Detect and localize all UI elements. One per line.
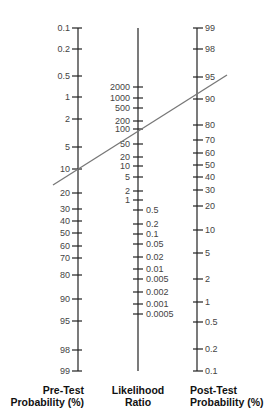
tick-label: 0.1 [57, 23, 70, 33]
tick-label: 0.5 [146, 205, 159, 215]
tick-label: 20 [205, 201, 215, 211]
tick-label: 10 [120, 161, 130, 171]
tick-label: 30 [60, 204, 70, 214]
tick-label: 0.5 [205, 317, 218, 327]
tick-label: 50 [60, 228, 70, 238]
likelihood-ratio-axis-label: Likelihood Ratio [98, 384, 178, 408]
tick-label: 80 [60, 270, 70, 280]
example-line [53, 75, 227, 185]
tick-label: 0.1 [205, 366, 218, 376]
tick-label: 0.01 [146, 264, 164, 274]
tick-label: 40 [205, 172, 215, 182]
tick-label: 98 [60, 345, 70, 355]
lr-label-line1: Likelihood [98, 384, 178, 396]
tick-label: 2 [205, 274, 210, 284]
tick-label: 10 [60, 164, 70, 174]
lr-label-line2: Ratio [98, 396, 178, 408]
tick-label: 99 [205, 23, 215, 33]
axis-1: 200010005002001005020105210.50.20.10.050… [110, 28, 174, 371]
tick-label: 1000 [110, 93, 130, 103]
pre-test-label-line1: Pre-Test [0, 384, 84, 396]
tick-label: 0.0005 [146, 309, 174, 319]
tick-label: 0.2 [205, 344, 218, 354]
tick-label: 500 [115, 103, 130, 113]
tick-label: 60 [205, 148, 215, 158]
tick-label: 95 [205, 72, 215, 82]
tick-label: 0.02 [146, 252, 164, 262]
tick-label: 98 [205, 44, 215, 54]
tick-label: 80 [205, 120, 215, 130]
axis-2: 9998959080706050403020105210.50.20.1 [193, 23, 218, 376]
tick-label: 70 [60, 253, 70, 263]
axis-0: 0.10.20.5125102030405060708090959899 [57, 23, 82, 376]
tick-label: 95 [60, 316, 70, 326]
tick-label: 70 [205, 135, 215, 145]
post-test-axis-label: Post-Test Probability (%) [190, 384, 279, 408]
tick-label: 5 [205, 248, 210, 258]
tick-label: 1 [125, 195, 130, 205]
tick-label: 0.002 [146, 287, 169, 297]
tick-label: 1 [205, 297, 210, 307]
tick-label: 2 [65, 114, 70, 124]
pre-test-axis-label: Pre-Test Probability (%) [0, 384, 84, 408]
tick-label: 99 [60, 366, 70, 376]
tick-label: 90 [60, 294, 70, 304]
tick-label: 20 [60, 188, 70, 198]
tick-label: 0.2 [57, 44, 70, 54]
tick-label: 60 [60, 241, 70, 251]
tick-label: 0.2 [146, 219, 159, 229]
tick-label: 0.001 [146, 299, 169, 309]
tick-label: 30 [205, 185, 215, 195]
tick-label: 100 [115, 124, 130, 134]
post-test-label-line2: Probability (%) [190, 396, 279, 408]
tick-label: 5 [65, 142, 70, 152]
pre-test-label-line2: Probability (%) [0, 396, 84, 408]
fagan-nomogram: 0.10.20.51251020304050607080909598992000… [0, 0, 279, 380]
tick-label: 2000 [110, 82, 130, 92]
tick-label: 0.005 [146, 274, 169, 284]
tick-label: 0.5 [57, 71, 70, 81]
tick-label: 1 [65, 92, 70, 102]
tick-label: 50 [205, 160, 215, 170]
tick-label: 50 [120, 139, 130, 149]
tick-label: 0.05 [146, 239, 164, 249]
tick-label: 40 [60, 216, 70, 226]
tick-label: 5 [125, 172, 130, 182]
post-test-label-line1: Post-Test [190, 384, 279, 396]
tick-label: 10 [205, 225, 215, 235]
tick-label: 0.1 [146, 229, 159, 239]
tick-label: 90 [205, 94, 215, 104]
